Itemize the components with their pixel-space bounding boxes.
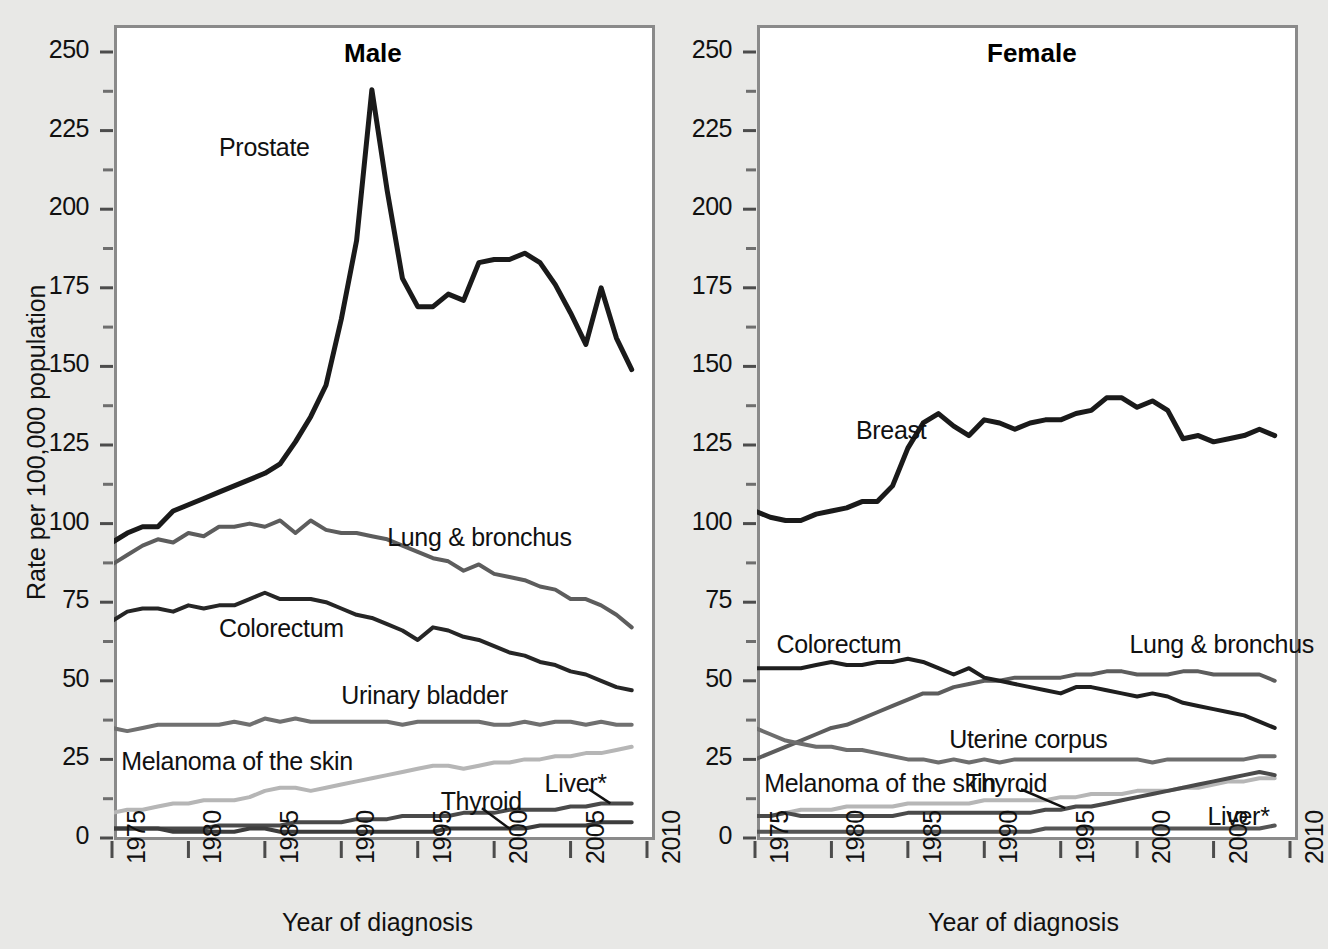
- series-label-lung-bronchus: Lung & bronchus: [1130, 630, 1315, 659]
- y-tick-label: 75: [0, 585, 89, 614]
- y-tick-label: 175: [632, 271, 732, 300]
- y-tick-label: 125: [0, 428, 89, 457]
- x-tick-label: 1975: [765, 810, 794, 864]
- x-tick-label: 2000: [504, 810, 533, 864]
- y-tick-label: 225: [0, 114, 89, 143]
- x-tick-label: 1975: [122, 810, 151, 864]
- x-tick-label: 1995: [1071, 810, 1100, 864]
- series-label-urinary-bladder: Urinary bladder: [341, 681, 507, 710]
- panel-male: Rate per 100,000 population Year of diag…: [0, 0, 660, 949]
- y-tick-label: 125: [632, 428, 732, 457]
- y-tick-label: 0: [632, 821, 732, 850]
- series-label-melanoma-of-the-skin: Melanoma of the skin: [764, 769, 996, 798]
- y-tick-label: 150: [632, 349, 732, 378]
- y-tick-label: 25: [0, 742, 89, 771]
- x-tick-label: 1985: [918, 810, 947, 864]
- x-tick-label: 1990: [351, 810, 380, 864]
- x-tick-label: 1985: [275, 810, 304, 864]
- x-tick-label: 1995: [428, 810, 457, 864]
- y-tick-label: 250: [632, 35, 732, 64]
- x-axis-title-female: Year of diagnosis: [928, 908, 1119, 937]
- x-tick-label: 2000: [1147, 810, 1176, 864]
- y-tick-label: 150: [0, 349, 89, 378]
- y-tick-label: 200: [0, 192, 89, 221]
- series-line-breast: [755, 398, 1275, 521]
- x-tick-label: 1980: [198, 810, 227, 864]
- series-label-liver: Liver*: [545, 769, 607, 798]
- y-tick-label: 100: [632, 507, 732, 536]
- y-tick-label: 50: [632, 664, 732, 693]
- y-tick-label: 200: [632, 192, 732, 221]
- series-label-melanoma-of-the-skin: Melanoma of the skin: [121, 747, 353, 776]
- y-tick-label: 0: [0, 821, 89, 850]
- plot-svg-male: [0, 0, 660, 949]
- series-label-breast: Breast: [856, 416, 926, 445]
- panel-female: Year of diagnosis 0255075100125150175200…: [660, 0, 1314, 949]
- series-label-liver: Liver*: [1207, 802, 1269, 831]
- series-label-uterine-corpus: Uterine corpus: [949, 725, 1107, 754]
- series-label-thyroid: Thyroid: [441, 787, 522, 816]
- y-tick-label: 225: [632, 114, 732, 143]
- series-label-colorectum: Colorectum: [776, 630, 901, 659]
- x-axis-title-male: Year of diagnosis: [282, 908, 473, 937]
- y-tick-label: 175: [0, 271, 89, 300]
- panel-title-female: Female: [987, 38, 1077, 69]
- x-tick-label: 2005: [581, 810, 610, 864]
- series-label-lung-bronchus: Lung & bronchus: [387, 523, 572, 552]
- series-line-colorectum: [112, 593, 632, 690]
- y-tick-label: 100: [0, 507, 89, 536]
- panel-title-male: Male: [344, 38, 402, 69]
- series-line-colorectum: [755, 659, 1275, 728]
- series-line-prostate: [112, 90, 632, 543]
- y-tick-label: 25: [632, 742, 732, 771]
- y-tick-label: 50: [0, 664, 89, 693]
- x-tick-label: 2010: [1300, 810, 1328, 864]
- y-tick-label: 75: [632, 585, 732, 614]
- y-tick-label: 250: [0, 35, 89, 64]
- x-tick-label: 1980: [841, 810, 870, 864]
- series-label-colorectum: Colorectum: [219, 614, 344, 643]
- series-line-urinary-bladder: [112, 719, 632, 732]
- x-tick-label: 1990: [994, 810, 1023, 864]
- series-label-prostate: Prostate: [219, 133, 310, 162]
- series-label-thyroid: Thyroid: [966, 769, 1047, 798]
